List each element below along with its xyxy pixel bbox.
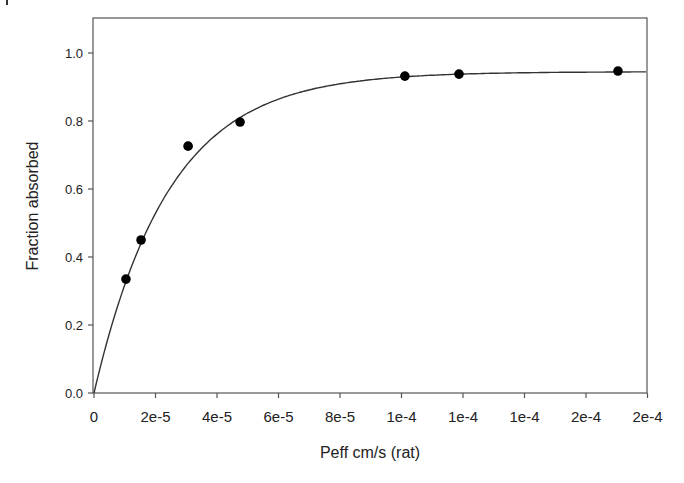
x-tick-label: 0 [90,408,98,425]
chart: 0.00.20.40.60.81.0 02e-54e-56e-58e-51e-4… [0,0,684,483]
x-tick-label: 8e-5 [325,408,355,425]
y-tick-label: 0.2 [65,318,83,333]
data-point [136,235,146,245]
x-axis: 02e-54e-56e-58e-51e-41e-41e-42e-42e-4 [90,393,663,425]
data-point [454,69,464,79]
x-axis-title: Peff cm/s (rat) [320,444,420,461]
data-points [121,66,623,284]
plot-area: 0.00.20.40.60.81.0 02e-54e-56e-58e-51e-4… [65,18,663,425]
x-tick-label: 2e-4 [571,408,601,425]
data-point [613,66,623,76]
y-tick-label: 0.8 [65,114,83,129]
x-tick-label: 1e-4 [386,408,416,425]
plot-frame [93,18,647,393]
data-point [400,71,410,81]
x-tick-label: 1e-4 [448,408,478,425]
x-tick-label: 6e-5 [263,408,293,425]
x-tick-label: 4e-5 [202,408,232,425]
fit-curve [94,72,646,393]
y-tick-label: 1.0 [65,46,83,61]
y-tick-label: 0.4 [65,250,83,265]
x-tick-label: 2e-4 [632,408,662,425]
y-axis-title: Fraction absorbed [24,142,41,271]
y-tick-label: 0.0 [65,386,83,401]
y-tick-label: 0.6 [65,182,83,197]
data-point [183,141,193,151]
data-point [235,117,245,127]
x-tick-label: 1e-4 [509,408,539,425]
x-tick-label: 2e-5 [140,408,170,425]
data-point [121,274,131,284]
y-axis: 0.00.20.40.60.81.0 [65,46,93,401]
